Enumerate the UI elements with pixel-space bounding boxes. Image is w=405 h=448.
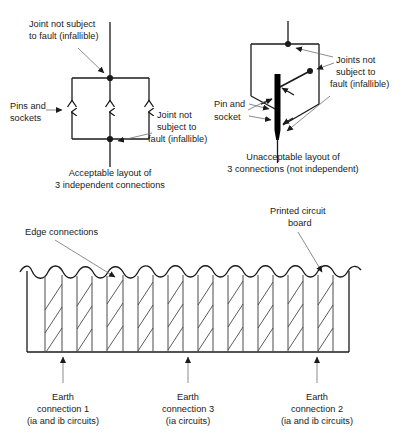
leader-bottom-joint: [118, 133, 152, 141]
caption-acceptable-line1: Acceptable layout of: [69, 168, 152, 178]
r-label-joints-line3: fault (infallible): [330, 79, 389, 89]
earth-connection-1-line3: (ia and ib circuits): [27, 416, 99, 426]
socket-symbol-right: [145, 101, 154, 108]
label-bottom-joint-line1: Joint not: [157, 110, 192, 120]
strip-hatched-3: [107, 275, 123, 352]
earth-connection-1: Earth connection 1 (ia and ib circuits): [27, 357, 99, 426]
r-connection-arrow-2: [282, 88, 294, 95]
diagram-unacceptable-layout: Joints not subject to fault (infallible)…: [214, 21, 389, 174]
r-middle-slant-wire: [278, 71, 310, 88]
earth-connection-2-line2: connection 2: [291, 404, 343, 414]
r-top-joint-dot: [285, 41, 291, 47]
r-label-joints-line2: subject to: [336, 67, 375, 77]
r-label-pin-socket-line1: Pin and: [214, 99, 245, 109]
board-strips: [45, 275, 333, 352]
strip-hatched-2: [77, 276, 92, 352]
socket-symbol-left: [68, 101, 77, 108]
r-leader-joint-bottom: [287, 96, 330, 131]
socket-symbol-middle: [106, 101, 115, 108]
label-board-line1: Printed circuit: [270, 206, 326, 216]
label-bottom-joint-line3: fault (infallible): [148, 134, 207, 144]
earth-connection-3-line3: (ia circuits): [166, 416, 210, 426]
board-top-wavy-edge: [20, 266, 361, 279]
strip-hatched-8: [258, 275, 273, 352]
strip-hatched-1: [45, 275, 62, 352]
earth-connection-2: Earth connection 2 (ia and ib circuits): [281, 357, 353, 426]
label-pins-sockets-line1: Pins and: [10, 101, 46, 111]
earth-connection-3: Earth connection 3 (ia circuits): [162, 357, 214, 426]
leader-top-joint: [78, 48, 104, 73]
r-label-pin-socket-line2: socket: [214, 112, 241, 122]
figure-root: Joint not subject to fault (infallible) …: [0, 0, 405, 448]
r-leader-joint-top: [296, 48, 333, 57]
label-top-joint-line1: Joint not subject: [29, 19, 96, 29]
earth-connection-1-line2: connection 1: [37, 404, 89, 414]
r-right-lower-slant: [283, 104, 319, 125]
r-leader-pin-socket-2: [249, 116, 271, 120]
earth-connection-1-line1: Earth: [52, 392, 74, 402]
r-label-joints-line1: Joints not: [336, 55, 376, 65]
diagram-acceptable-layout: Joint not subject to fault (infallible) …: [10, 19, 207, 190]
strip-hatched-9: [288, 275, 303, 352]
common-conductor-bar: [275, 74, 281, 130]
strip-hatched-4: [138, 275, 153, 352]
caption-unacceptable-line1: Unacceptable layout of: [246, 152, 340, 162]
label-bottom-joint-line2: subject to: [157, 122, 196, 132]
r-leader-pin-socket-3: [248, 101, 266, 110]
label-board-line2: board: [288, 218, 312, 228]
caption-acceptable-line2: 3 independent connections: [55, 180, 165, 190]
label-pins-sockets-line2: sockets: [10, 113, 42, 123]
r-second-joint-dot: [307, 68, 313, 74]
leader-edge-connections: [55, 240, 115, 277]
diagram-printed-circuit-board: Edge connections Printed circuit board E…: [20, 206, 361, 426]
r-connection-arrow-3: [283, 118, 293, 124]
leader-printed-circuit-board: [298, 232, 322, 272]
strip-hatched-10: [318, 275, 333, 352]
earth-connection-3-line2: connection 3: [162, 404, 214, 414]
earth-connection-3-line1: Earth: [177, 392, 199, 402]
label-top-joint-line2: to fault (infallible): [29, 31, 98, 41]
technical-diagram-canvas: Joint not subject to fault (infallible) …: [0, 0, 405, 448]
earth-connection-2-line3: (ia and ib circuits): [281, 416, 353, 426]
strip-hatched-5: [168, 275, 183, 352]
earth-connection-2-line1: Earth: [306, 392, 328, 402]
label-edge-connections: Edge connections: [25, 227, 98, 237]
caption-unacceptable-line2: 3 connections (not independent): [227, 164, 358, 174]
strip-hatched-7: [228, 275, 243, 352]
strip-hatched-6: [198, 275, 213, 352]
r-connection-arrow-1: [261, 99, 272, 104]
